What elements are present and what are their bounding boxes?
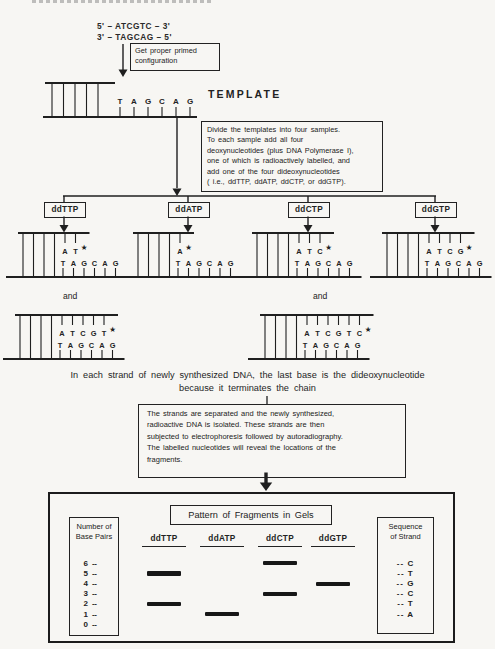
base-pair-row: 4-- bbox=[74, 579, 114, 588]
svg-text:A: A bbox=[99, 341, 105, 350]
svg-text:G: G bbox=[445, 259, 451, 268]
svg-text:A: A bbox=[131, 97, 137, 106]
base-pair-row: 0-- bbox=[74, 620, 114, 629]
bp-tick: -- bbox=[92, 610, 96, 619]
bp-number: 2 bbox=[74, 599, 88, 608]
svg-text:★: ★ bbox=[466, 243, 473, 252]
svg-text:G: G bbox=[145, 97, 151, 106]
primed-config-box: Get proper primed configuration bbox=[130, 43, 220, 71]
svg-text:C: C bbox=[89, 341, 95, 350]
svg-text:G: G bbox=[347, 259, 353, 268]
svg-text:A: A bbox=[466, 259, 472, 268]
strand-diagram-and-right: ATCGTC★TAGCAG bbox=[248, 315, 374, 359]
bp-tick: -- bbox=[92, 569, 96, 578]
gel-title-box: Pattern of Fragments in Gels bbox=[170, 505, 332, 525]
svg-text:A: A bbox=[59, 329, 65, 338]
separation-box: The strands are separated and the newly … bbox=[138, 404, 406, 478]
svg-text:C: C bbox=[80, 329, 86, 338]
svg-text:G: G bbox=[477, 259, 483, 268]
ddgtp-label-box: ddGTP bbox=[415, 202, 457, 218]
sequence-row: -- C bbox=[378, 559, 433, 568]
and-label-right: and bbox=[313, 291, 327, 301]
sequence-row: -- G bbox=[378, 579, 433, 588]
gel-band-ddgtp-bp4 bbox=[316, 582, 350, 586]
base-pair-row: 6-- bbox=[74, 559, 114, 568]
svg-text:G: G bbox=[113, 259, 119, 268]
bp-number: 5 bbox=[74, 569, 88, 578]
svg-text:G: G bbox=[323, 341, 329, 350]
svg-text:A: A bbox=[313, 341, 319, 350]
sequence-row: -- T bbox=[378, 569, 433, 578]
svg-text:G: G bbox=[458, 247, 464, 256]
svg-text:A: A bbox=[435, 259, 441, 268]
svg-text:★: ★ bbox=[365, 325, 372, 334]
svg-text:C: C bbox=[357, 329, 363, 338]
branch-arrow-ddttp bbox=[60, 217, 69, 233]
bp-tick: -- bbox=[92, 589, 96, 598]
branch-arrow-ddatp bbox=[184, 217, 193, 233]
divide-samples-box: Divide the templates into four samples. … bbox=[201, 121, 383, 192]
svg-text:T: T bbox=[102, 329, 107, 338]
svg-text:A: A bbox=[62, 247, 68, 256]
lane-header-ddttp: ddTTP bbox=[142, 534, 186, 547]
svg-text:A: A bbox=[186, 259, 192, 268]
bp-tick: -- bbox=[92, 620, 96, 629]
svg-text:A: A bbox=[71, 259, 77, 268]
gel-band-ddctp-bp3 bbox=[263, 592, 297, 596]
branch-arrow-ddgtp bbox=[431, 217, 440, 233]
base-pair-row: 2-- bbox=[74, 599, 114, 608]
svg-text:G: G bbox=[81, 259, 87, 268]
bp-number: 3 bbox=[74, 589, 88, 598]
svg-text:★: ★ bbox=[325, 243, 332, 252]
base-pair-row: 3-- bbox=[74, 589, 114, 598]
bp-tick: -- bbox=[92, 559, 96, 568]
strand-diagram-ddatp: A★TAGCAG bbox=[121, 233, 243, 277]
base-pairs-box: Number of Base Pairs 6-- 5-- 4-- 3-- 2--… bbox=[69, 517, 119, 636]
svg-text:C: C bbox=[334, 341, 340, 350]
svg-text:C: C bbox=[325, 329, 331, 338]
strand-diagram-ddttp: AT★TAGCAG bbox=[6, 233, 128, 277]
svg-text:T: T bbox=[315, 329, 320, 338]
base-pair-row: 1-- bbox=[74, 610, 114, 619]
gel-band-ddctp-bp6 bbox=[263, 561, 297, 565]
svg-text:T: T bbox=[58, 341, 63, 350]
template-diagram: TAGCAG bbox=[43, 83, 197, 117]
bp-number: 6 bbox=[74, 559, 88, 568]
svg-text:T: T bbox=[73, 247, 78, 256]
svg-text:C: C bbox=[207, 259, 213, 268]
template-label: TEMPLATE bbox=[208, 88, 281, 100]
svg-text:A: A bbox=[305, 259, 311, 268]
svg-text:★: ★ bbox=[81, 243, 88, 252]
caption-line-2: because it terminates the chain bbox=[0, 383, 495, 393]
svg-text:G: G bbox=[187, 97, 193, 106]
svg-text:T: T bbox=[295, 259, 300, 268]
gel-band-ddatp-bp1 bbox=[205, 612, 239, 616]
svg-text:G: G bbox=[196, 259, 202, 268]
and-label-left: and bbox=[63, 291, 77, 301]
svg-text:T: T bbox=[61, 259, 66, 268]
svg-text:C: C bbox=[317, 247, 323, 256]
svg-text:C: C bbox=[447, 247, 453, 256]
svg-text:A: A bbox=[217, 259, 223, 268]
branch-arrow-ddctp bbox=[304, 217, 313, 233]
svg-text:A: A bbox=[173, 97, 179, 106]
sequence-row: -- A bbox=[378, 610, 433, 619]
svg-text:C: C bbox=[92, 259, 98, 268]
svg-text:A: A bbox=[102, 259, 108, 268]
svg-text:G: G bbox=[91, 329, 97, 338]
gel-band-ddttp-bp2 bbox=[147, 602, 181, 606]
svg-text:A: A bbox=[304, 329, 310, 338]
svg-text:G: G bbox=[110, 341, 116, 350]
lane-header-ddgtp: ddGTP bbox=[311, 534, 355, 547]
svg-text:A: A bbox=[177, 247, 183, 256]
svg-text:A: A bbox=[426, 247, 432, 256]
gel-band-ddttp-bp5 bbox=[147, 571, 181, 575]
sequence-box: Sequence of Strand -- C -- T -- G -- C -… bbox=[377, 517, 434, 634]
svg-text:G: G bbox=[78, 341, 84, 350]
strand-diagram-and-left: ATCGT★TAGCAG bbox=[3, 315, 125, 359]
ddttp-label-box: ddTTP bbox=[44, 202, 86, 218]
bp-tick: -- bbox=[92, 579, 96, 588]
svg-text:G: G bbox=[228, 259, 234, 268]
lane-header-ddatp: ddATP bbox=[200, 534, 244, 547]
svg-text:T: T bbox=[437, 247, 442, 256]
